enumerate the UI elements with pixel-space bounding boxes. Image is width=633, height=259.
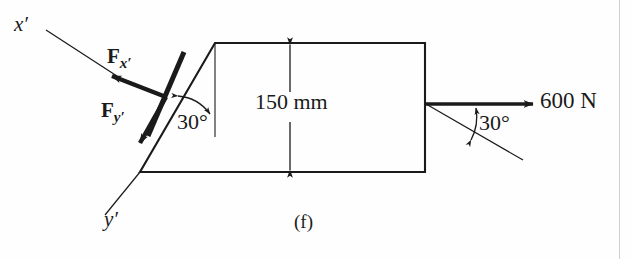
fy-prime-label: Fy′ [101, 100, 125, 125]
fy-prime-subscript: y′ [114, 109, 125, 125]
x-prime-axis-label: x′ [14, 14, 28, 35]
applied-force-label: 600 N [540, 89, 597, 112]
right-angle-arc [471, 108, 477, 140]
height-dimension-label: 150 mm [255, 91, 328, 113]
left-angle-label: 30° [177, 111, 208, 133]
y-prime-axis-label: y′ [104, 209, 118, 230]
right-angle-label: 30° [479, 112, 510, 134]
engineering-diagram-svg [0, 0, 633, 259]
fx-prime-vector [112, 76, 166, 97]
fy-prime-vector [140, 97, 166, 143]
page-edge-line [619, 0, 620, 259]
fx-prime-label: Fx′ [107, 46, 132, 71]
figure-caption: (f) [294, 212, 313, 231]
fx-prime-subscript: x′ [120, 55, 132, 71]
figure-container: x′ y′ Fx′ Fy′ 30° 150 mm 30° 600 N (f) [0, 0, 633, 259]
fy-prime-symbol: F [101, 98, 114, 122]
fx-prime-symbol: F [107, 44, 120, 68]
